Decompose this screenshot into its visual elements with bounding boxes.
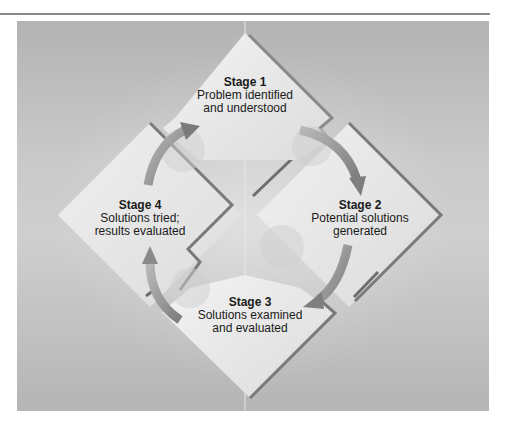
cycle-diagram	[0, 0, 505, 427]
stage-3-desc-line2: and evaluated	[185, 322, 315, 335]
stage-3-label: Stage 3 Solutions examined and evaluated	[185, 296, 315, 335]
stage-2-label: Stage 2 Potential solutions generated	[295, 199, 425, 238]
stage-1-label: Stage 1 Problem identified and understoo…	[180, 76, 310, 115]
stage-4-desc-line2: results evaluated	[80, 225, 200, 238]
stage-4-label: Stage 4 Solutions tried; results evaluat…	[80, 199, 200, 238]
stage-1-desc-line2: and understood	[180, 102, 310, 115]
stage-2-desc-line2: generated	[295, 225, 425, 238]
